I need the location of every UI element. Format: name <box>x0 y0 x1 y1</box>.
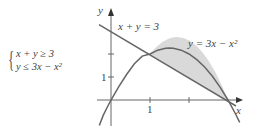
x-axis-arrow <box>236 97 243 103</box>
y-axis-arrow <box>108 8 114 16</box>
y-axis-label: y <box>97 4 103 16</box>
x-tick-label: 1 <box>147 103 153 115</box>
graph: y x 1 1 x + y = 3 y = 3x − x² <box>0 0 253 135</box>
y-tick-label: 1 <box>101 71 107 83</box>
parabola-label: y = 3x − x² <box>187 37 238 49</box>
line-label: x + y = 3 <box>117 20 160 32</box>
x-axis-label: x <box>235 104 241 116</box>
